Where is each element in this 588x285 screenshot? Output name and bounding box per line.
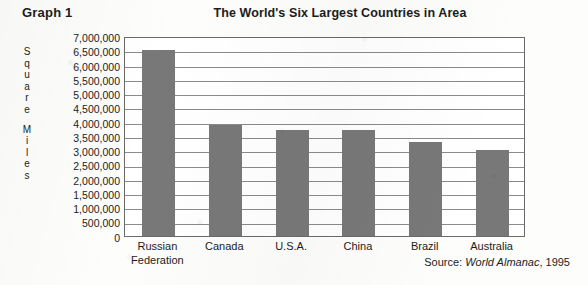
bar bbox=[342, 130, 375, 236]
y-axis-tick-label: 3,000,000 bbox=[40, 145, 120, 159]
y-axis-tick-label: 0 bbox=[40, 231, 120, 245]
y-axis-tick-label: 5,000,000 bbox=[40, 88, 120, 102]
gridline bbox=[125, 52, 524, 53]
y-axis-title-char: i bbox=[17, 135, 37, 147]
gridline bbox=[125, 124, 524, 125]
gridline bbox=[125, 181, 524, 182]
y-axis-tick-label: 2,000,000 bbox=[40, 174, 120, 188]
y-axis-title-char: e bbox=[17, 104, 37, 116]
y-axis-title: SquareMiles bbox=[17, 46, 37, 182]
x-axis-tick-label: Australia bbox=[458, 240, 525, 254]
x-axis-tick-label: RussianFederation bbox=[124, 240, 191, 267]
gridline bbox=[125, 109, 524, 110]
gridline bbox=[125, 195, 524, 196]
y-axis-tick-labels: 7,000,0006,500,0006,000,0005,500,0005,00… bbox=[40, 31, 120, 245]
y-axis-title-char: e bbox=[17, 158, 37, 170]
y-axis-tick-label: 6,000,000 bbox=[40, 60, 120, 74]
y-axis-tick-label: 500,000 bbox=[40, 216, 120, 230]
plot-area bbox=[124, 37, 525, 237]
x-axis-tick-label: China bbox=[325, 240, 392, 254]
y-axis-tick-label: 4,000,000 bbox=[40, 117, 120, 131]
x-axis-tick-label: Canada bbox=[191, 240, 258, 254]
y-axis-tick-label: 5,500,000 bbox=[40, 74, 120, 88]
y-axis-tick-label: 3,500,000 bbox=[40, 131, 120, 145]
bar bbox=[476, 150, 509, 236]
gridline bbox=[125, 167, 524, 168]
y-axis-tick-label: 1,000,000 bbox=[40, 202, 120, 216]
graph-number-label: Graph 1 bbox=[22, 5, 73, 20]
y-axis-tick-label: 7,000,000 bbox=[40, 31, 120, 45]
x-axis-tick-label-line: Brazil bbox=[391, 240, 458, 254]
gridline bbox=[125, 152, 524, 153]
bar bbox=[276, 130, 309, 236]
source-publication: World Almanac bbox=[465, 256, 539, 268]
y-axis-tick-label: 4,500,000 bbox=[40, 102, 120, 116]
x-axis-tick-label-line: Australia bbox=[458, 240, 525, 254]
x-axis-tick-label: U.S.A. bbox=[258, 240, 325, 254]
y-axis-title-char: s bbox=[17, 170, 37, 182]
x-axis-tick-label-line: Federation bbox=[124, 254, 191, 268]
gridline bbox=[125, 95, 524, 96]
y-axis-title-char: r bbox=[17, 92, 37, 104]
chart-title: The World's Six Largest Countries in Are… bbox=[150, 6, 530, 20]
x-axis-tick-label: Brazil bbox=[391, 240, 458, 254]
y-axis-title-char: S bbox=[17, 46, 37, 58]
y-axis-tick-label: 6,500,000 bbox=[40, 45, 120, 59]
gridline bbox=[125, 209, 524, 210]
y-axis-title-word-gap bbox=[17, 116, 37, 124]
y-axis-tick-label: 2,500,000 bbox=[40, 159, 120, 173]
gridline bbox=[125, 81, 524, 82]
x-axis-tick-label-line: Russian bbox=[124, 240, 191, 254]
y-axis-tick-label: 1,500,000 bbox=[40, 188, 120, 202]
y-axis-title-char: a bbox=[17, 81, 37, 93]
bar bbox=[209, 125, 242, 236]
y-axis-title-char: l bbox=[17, 147, 37, 159]
bar bbox=[409, 142, 442, 236]
y-axis-title-char: M bbox=[17, 124, 37, 136]
source-year: , 1995 bbox=[539, 256, 570, 268]
x-axis-tick-label-line: U.S.A. bbox=[258, 240, 325, 254]
y-axis-title-char: q bbox=[17, 58, 37, 70]
x-axis-tick-label-line: China bbox=[325, 240, 392, 254]
gridline bbox=[125, 138, 524, 139]
x-axis-tick-label-line: Canada bbox=[191, 240, 258, 254]
gridline bbox=[125, 224, 524, 225]
bar bbox=[142, 50, 175, 236]
source-prefix: Source: bbox=[424, 256, 465, 268]
y-axis-title-char: u bbox=[17, 69, 37, 81]
gridline bbox=[125, 67, 524, 68]
source-note: Source: World Almanac, 1995 bbox=[424, 256, 570, 268]
